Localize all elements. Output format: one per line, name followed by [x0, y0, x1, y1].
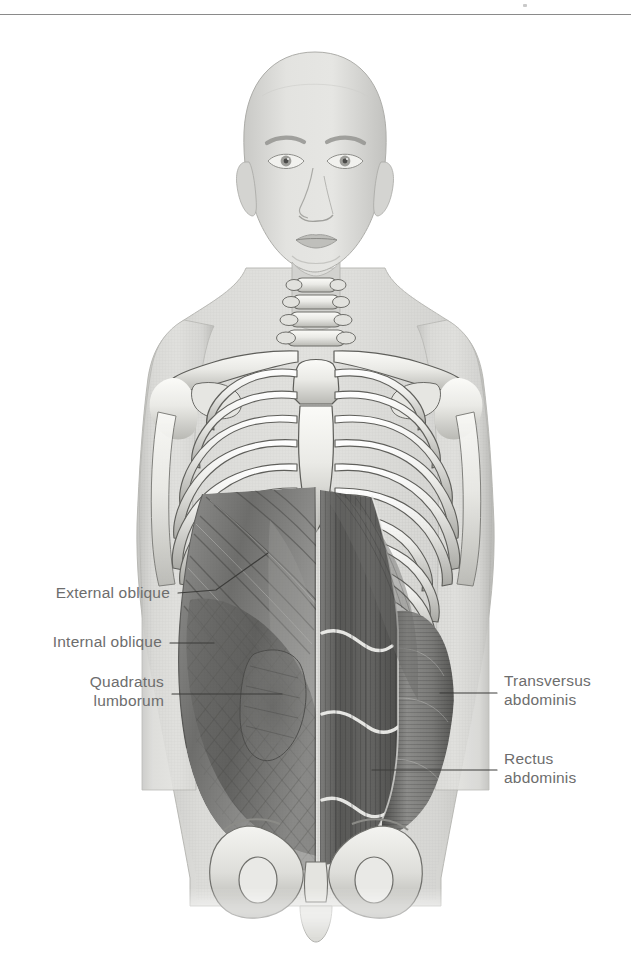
label-rectus-abdominis: Rectus abdominis: [504, 749, 631, 787]
illustration-page: External oblique Internal oblique Quadra…: [0, 0, 631, 965]
label-quadratus-lumborum: Quadratus lumborum: [0, 672, 164, 710]
anatomy-figure: [0, 0, 631, 965]
label-transversus-abdominis: Transversus abdominis: [504, 671, 631, 709]
head-and-face: [236, 52, 393, 272]
label-external-oblique: External oblique: [0, 583, 170, 602]
label-internal-oblique: Internal oblique: [0, 632, 162, 651]
